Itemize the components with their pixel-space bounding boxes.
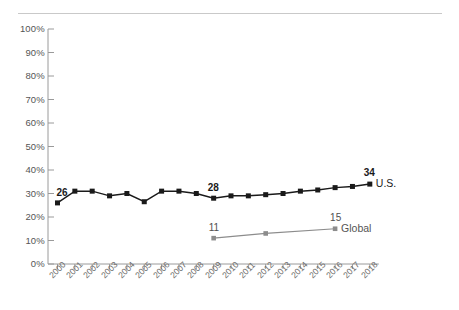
y-axis-tick-label: 20%: [3, 211, 45, 222]
data-point-marker: [142, 199, 147, 204]
series-label-us: U.S.: [376, 177, 396, 189]
chart-container: 0%10%20%30%40%50%60%70%80%90%100% 200020…: [0, 0, 459, 310]
y-axis-tick-label: 100%: [3, 23, 45, 34]
data-point-value-label: 26: [57, 187, 68, 198]
data-point-value-label: 15: [330, 212, 341, 223]
data-point-marker: [90, 189, 95, 194]
data-point-value-label: 28: [208, 182, 219, 193]
data-point-marker: [55, 200, 60, 205]
data-point-marker: [72, 189, 77, 194]
data-point-marker: [281, 191, 286, 196]
data-point-marker: [350, 184, 355, 189]
data-point-marker: [159, 189, 164, 194]
data-point-marker: [263, 231, 268, 236]
y-axis-tick-label: 10%: [3, 235, 45, 246]
y-axis-tick-label: 50%: [3, 141, 45, 152]
y-axis-tick-label: 30%: [3, 188, 45, 199]
data-point-marker: [211, 196, 216, 201]
data-point-marker: [315, 187, 320, 192]
y-axis-tick-label: 70%: [3, 94, 45, 105]
y-axis-tick-label: 40%: [3, 164, 45, 175]
y-axis-tick-label: 90%: [3, 47, 45, 58]
data-point-marker: [246, 193, 251, 198]
data-point-marker: [176, 189, 181, 194]
data-point-marker: [333, 226, 338, 231]
data-point-marker: [333, 185, 338, 190]
data-point-marker: [107, 193, 112, 198]
data-point-marker: [211, 236, 216, 241]
series-label-global: Global: [341, 222, 371, 234]
data-point-value-label: 34: [364, 167, 375, 178]
data-point-marker: [298, 189, 303, 194]
data-point-marker: [124, 191, 129, 196]
data-point-marker: [367, 182, 372, 187]
data-point-marker: [263, 192, 268, 197]
data-point-value-label: 11: [209, 222, 219, 233]
y-axis-tick-label: 80%: [3, 70, 45, 81]
y-axis-tick-label: 60%: [3, 117, 45, 128]
data-point-marker: [229, 193, 234, 198]
data-point-marker: [194, 191, 199, 196]
y-axis-tick-label: 0%: [3, 258, 45, 269]
series-line-global: [214, 229, 335, 238]
